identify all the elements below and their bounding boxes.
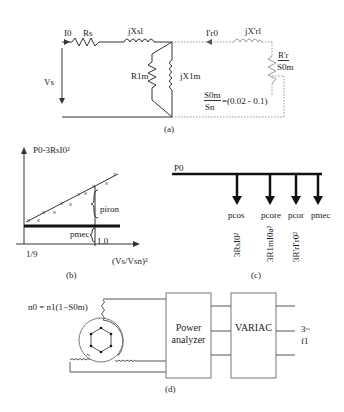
label-jxsl: jXsl (128, 27, 143, 36)
jxsl-inductor (124, 39, 154, 42)
data-points: xx xx xx xx xx x (27, 171, 116, 223)
x-marker-1: 1.0 (97, 237, 108, 246)
jxrl-inductor (234, 39, 262, 42)
label-p0: P0 (174, 164, 184, 173)
pcore-arrow-icon (265, 196, 275, 205)
label-vs: Vs (44, 78, 54, 87)
ir0-arrow-icon (206, 39, 212, 45)
vs-arrow-icon (59, 98, 65, 104)
rotor-bars (90, 327, 113, 354)
svg-text:x: x (42, 209, 45, 215)
svg-text:x: x (84, 190, 87, 196)
caption-c: (c) (251, 270, 261, 280)
svg-text:x: x (69, 201, 72, 207)
r1m-resistor (148, 62, 156, 88)
supply-freq: f1 (301, 337, 309, 346)
motor-stator (79, 318, 123, 362)
caption-b: (b) (66, 270, 77, 280)
label-rr: R'r (278, 51, 289, 61)
y-axis-arrow-icon (21, 147, 27, 154)
caption-a: (a) (164, 124, 174, 134)
svg-text:x: x (53, 209, 56, 215)
slip-ratio-value: =(0.02 - 0.1) (222, 97, 268, 106)
label-r1m: R1m (131, 72, 149, 81)
label-s0m: S0m (277, 63, 294, 72)
formula-pcore: 3R1mI0a² (265, 226, 275, 262)
svg-text:x: x (27, 217, 30, 223)
label-i0: I0 (64, 29, 72, 38)
label-piron: piron (100, 205, 119, 214)
speed-equation: n0 = n1(1−S0m) (28, 303, 88, 312)
label-pmec: pmec (70, 230, 90, 239)
slip-ratio-num: S0m (204, 91, 221, 101)
svg-text:x: x (92, 183, 95, 189)
power-analyzer-label: Power analyzer (166, 322, 211, 346)
jx1m-inductor (170, 60, 173, 90)
svg-text:x: x (105, 180, 108, 186)
label-pcor: pcor (288, 211, 304, 220)
x-axis-arrow-icon (133, 241, 140, 247)
label-pcos: pcos (228, 211, 245, 220)
x-axis-label: (Vs/Vsn)² (112, 257, 148, 266)
variac-label: VARIAC (231, 322, 276, 334)
label-pmec-c: pmec (311, 211, 331, 220)
winding-top (102, 300, 105, 320)
y-axis-label: P0-3RsI0² (33, 146, 70, 155)
pmec-brace (90, 228, 95, 242)
winding-right (115, 360, 135, 362)
svg-text:x: x (77, 191, 80, 197)
pmec-arrow-icon (313, 196, 323, 205)
variac-box (231, 293, 276, 378)
rr-resistor (268, 56, 276, 84)
winding-left (70, 359, 90, 361)
caption-d: (d) (165, 384, 176, 394)
pcos-arrow-icon (232, 196, 242, 205)
formula-pcor: 3R'rI'r0² (291, 232, 301, 262)
pcor-arrow-icon (291, 196, 301, 205)
x-tick-1-9: 1/9 (26, 250, 38, 259)
rotor-hexagon (91, 328, 111, 352)
label-rs: Rs (83, 29, 93, 38)
svg-text:x: x (60, 200, 63, 206)
formula-pcos: 3RsI0² (232, 233, 242, 257)
svg-text:x: x (37, 217, 40, 223)
supply-phase: 3~ (301, 325, 310, 334)
label-jxrl: jX'rl (245, 27, 261, 36)
i0-arrow-icon (64, 39, 70, 45)
slip-ratio-den: Sn (205, 103, 215, 112)
svg-text:x: x (113, 171, 116, 177)
label-jx1m: jX1m (180, 72, 201, 81)
label-pcore: pcore (261, 211, 281, 220)
rs-resistor (72, 38, 99, 46)
label-ir0: I'r0 (206, 29, 218, 38)
